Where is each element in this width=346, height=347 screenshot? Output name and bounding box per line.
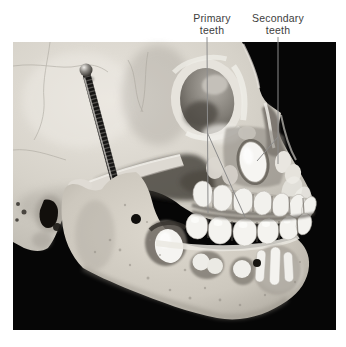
primary-teeth-label-line2: teeth [200,24,224,36]
spring-ball-head [80,64,93,77]
mental-foramen [253,259,261,267]
secondary-teeth-label-line1: Secondary [252,12,305,24]
skull-figure-svg: Primary teeth Secondary teeth [0,0,346,347]
labels: Primary teeth Secondary teeth [193,12,304,36]
mandible-window-incisors [253,245,301,295]
ramus-hole [131,214,141,224]
figure: Primary teeth Secondary teeth [0,0,346,347]
secondary-teeth-label-line2: teeth [266,24,290,36]
primary-teeth-label-line1: Primary [193,12,231,24]
